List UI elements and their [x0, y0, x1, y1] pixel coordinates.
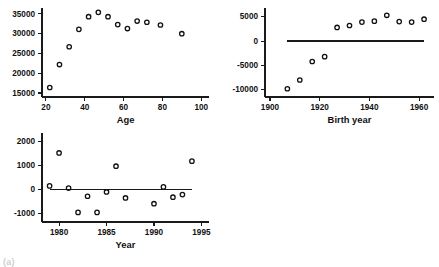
scatter-panel-age: 150002000025000300003500020406080100Age [0, 0, 218, 125]
y-axis-tick-label: 35000 [12, 10, 35, 19]
y-axis-tick-label: 1000 [17, 161, 36, 170]
x-axis-title: Year [116, 239, 136, 250]
x-axis-tick-label: 1980 [50, 228, 69, 237]
plot-canvas: 150002000025000300003500020406080100Age [0, 0, 218, 125]
data-point-marker [190, 159, 194, 163]
scatter-panel-birth-year: -10000-5000050001900192019401960Birth ye… [218, 0, 439, 125]
data-point-marker [123, 196, 127, 200]
data-point-marker [96, 10, 100, 14]
x-axis-tick-label: 1940 [360, 103, 379, 112]
y-axis-tick-label: 5000 [240, 12, 259, 21]
data-point-marker [409, 20, 413, 24]
y-axis-tick-label: 20000 [12, 69, 35, 78]
y-axis-tick-label: 15000 [12, 89, 35, 98]
data-point-marker [85, 194, 89, 198]
figure-caption: (a) [3, 257, 15, 267]
data-point-marker [372, 19, 376, 23]
x-axis-tick-label: 40 [80, 103, 90, 112]
data-point-marker [285, 87, 289, 91]
data-point-marker [116, 22, 120, 26]
data-point-marker [57, 62, 61, 66]
data-point-marker [347, 23, 351, 27]
data-point-marker [106, 15, 110, 19]
data-point-marker [397, 19, 401, 23]
x-axis-tick-label: 20 [41, 103, 51, 112]
x-axis-tick-label: 60 [119, 103, 129, 112]
x-axis-tick-label: 100 [194, 103, 208, 112]
y-axis-tick-label: 0 [30, 185, 35, 194]
data-point-marker [152, 202, 156, 206]
y-axis-tick-label: -10000 [233, 85, 259, 94]
y-axis-tick-label: 25000 [12, 49, 35, 58]
data-point-marker [180, 32, 184, 36]
y-axis-tick-label: 0 [253, 37, 258, 46]
data-point-marker [171, 195, 175, 199]
data-point-marker [161, 185, 165, 189]
x-axis-tick-label: 1995 [192, 228, 211, 237]
data-point-marker [95, 210, 99, 214]
x-axis-title: Birth year [328, 114, 372, 125]
data-point-marker [335, 25, 339, 29]
y-axis-tick-label: 2000 [17, 137, 36, 146]
y-axis-tick-label: -5000 [237, 61, 258, 70]
plot-canvas: -10000100020001980198519901995Year [0, 125, 218, 265]
data-point-marker [422, 17, 426, 21]
data-point-marker [104, 190, 108, 194]
data-point-marker [180, 192, 184, 196]
plot-canvas: -10000-5000050001900192019401960Birth ye… [218, 0, 439, 125]
data-point-marker [158, 23, 162, 27]
data-point-marker [114, 164, 118, 168]
x-axis-tick-label: 80 [158, 103, 168, 112]
scatter-panel-year: -10000100020001980198519901995Year [0, 125, 218, 265]
data-point-marker [145, 20, 149, 24]
x-axis-tick-label: 1900 [261, 103, 280, 112]
data-point-marker [47, 184, 51, 188]
data-point-marker [298, 78, 302, 82]
x-axis-tick-label: 1960 [410, 103, 429, 112]
data-point-marker [77, 27, 81, 31]
data-point-marker [86, 15, 90, 19]
x-axis-tick-label: 1990 [145, 228, 164, 237]
data-point-marker [135, 19, 139, 23]
data-point-marker [76, 210, 80, 214]
x-axis-tick-label: 1920 [311, 103, 330, 112]
y-axis-tick-label: -1000 [14, 209, 35, 218]
data-point-marker [67, 45, 71, 49]
data-point-marker [385, 13, 389, 17]
x-axis-tick-label: 1985 [97, 228, 116, 237]
y-axis-tick-label: 30000 [12, 29, 35, 38]
data-point-marker [310, 59, 314, 63]
data-point-marker [57, 151, 61, 155]
data-point-marker [48, 85, 52, 89]
data-point-marker [125, 26, 129, 30]
x-axis-title: Age [117, 114, 135, 125]
data-point-marker [322, 54, 326, 58]
data-point-marker [360, 20, 364, 24]
